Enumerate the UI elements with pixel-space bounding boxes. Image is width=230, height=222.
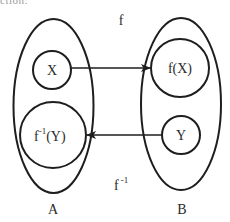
subset-finv-y-label-sup: -1 [39, 126, 47, 136]
subset-y-label: Y [176, 128, 186, 143]
set-a-label: A [48, 202, 59, 217]
subset-finv-y: f-1(Y) [20, 102, 86, 168]
subset-x: X [33, 51, 71, 89]
subset-fx-label: f(X) [168, 61, 192, 77]
set-b-label: B [177, 202, 186, 217]
subset-finv-y-label: f-1(Y) [34, 126, 66, 145]
arrow-f-inverse-label: f-1 [114, 175, 128, 193]
subset-finv-y-label-tail: (Y) [46, 129, 66, 145]
set-b-boundary [141, 18, 221, 190]
arrow-f-label: f [119, 13, 124, 28]
function-mapping-diagram: A B X f(X) f-1(Y) Y f f-1 [0, 0, 230, 222]
arrow-f-inverse-label-base: f [114, 178, 119, 193]
arrow-f-inverse: f-1 [87, 135, 162, 193]
set-b: B [141, 18, 221, 217]
set-a-boundary [14, 19, 94, 193]
subset-y: Y [162, 116, 200, 154]
subset-fx: f(X) [151, 39, 209, 97]
subset-x-label: X [47, 63, 57, 78]
arrow-f-inverse-label-sup: -1 [121, 175, 129, 185]
arrow-f: f [71, 13, 150, 68]
